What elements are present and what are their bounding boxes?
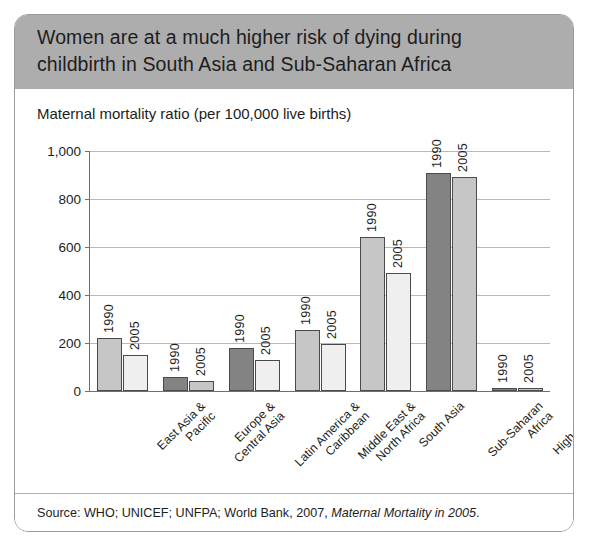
figure-title-line-1: Women are at a much higher risk of dying… xyxy=(37,24,553,51)
series-tag-1990: 1990 xyxy=(496,354,510,383)
bar-group: 19902005 xyxy=(360,151,411,391)
source-note: Source: WHO; UNICEF; UNFPA; World Bank, … xyxy=(15,493,573,532)
y-tick-label-600: 600 xyxy=(58,240,81,255)
bar-2005 xyxy=(452,177,477,391)
series-tag-1990: 1990 xyxy=(233,314,247,343)
bar-2005 xyxy=(321,344,346,391)
category-label: Sub-SaharanAfrica xyxy=(485,399,556,470)
bar-group: 19902005 xyxy=(163,151,214,391)
series-tag-2005: 2005 xyxy=(194,347,208,376)
y-tick-0 xyxy=(85,391,90,392)
category-label: High-income xyxy=(550,399,574,457)
bar-2005 xyxy=(518,388,543,391)
bar-1990 xyxy=(295,330,320,391)
bar-2005 xyxy=(386,273,411,391)
bar-2005 xyxy=(123,355,148,391)
bar-group: 19902005 xyxy=(492,151,543,391)
bar-1990 xyxy=(426,173,451,391)
series-tag-2005: 2005 xyxy=(259,326,273,355)
bar-2005 xyxy=(255,360,280,391)
figure-title: Women are at a much higher risk of dying… xyxy=(37,24,553,78)
category-label: Europe &Central Asia xyxy=(221,399,287,465)
bar-group: 19902005 xyxy=(295,151,346,391)
figure-card: Women are at a much higher risk of dying… xyxy=(14,14,574,532)
figure-header-band: Women are at a much higher risk of dying… xyxy=(15,15,573,89)
y-tick-600 xyxy=(85,247,90,248)
series-tag-1990: 1990 xyxy=(299,296,313,325)
figure-title-line-2: childbirth in South Asia and Sub-Saharan… xyxy=(37,51,553,78)
category-label: South Asia xyxy=(416,399,467,450)
y-tick-label-800: 800 xyxy=(58,192,81,207)
y-tick-400 xyxy=(85,295,90,296)
bar-1990 xyxy=(492,388,517,391)
bar-chart: 02004006008001,0001990200519902005199020… xyxy=(15,89,574,532)
series-tag-1990: 1990 xyxy=(430,139,444,168)
category-label: Latin America &Caribbean xyxy=(292,399,372,479)
series-tag-1990: 1990 xyxy=(168,343,182,372)
bar-group: 19902005 xyxy=(97,151,148,391)
plot-area: 02004006008001,0001990200519902005199020… xyxy=(89,151,550,392)
y-tick-label-0: 0 xyxy=(73,384,81,399)
bar-1990 xyxy=(360,237,385,391)
y-tick-label-1000: 1,000 xyxy=(47,144,81,159)
series-tag-2005: 2005 xyxy=(325,310,339,339)
series-tag-2005: 2005 xyxy=(128,321,142,350)
bar-group: 19902005 xyxy=(426,151,477,391)
y-tick-800 xyxy=(85,199,90,200)
series-tag-1990: 1990 xyxy=(102,304,116,333)
category-label-line-1: High-income xyxy=(550,399,574,457)
category-label: Middle East &North Africa xyxy=(355,399,428,472)
series-tag-2005: 2005 xyxy=(391,239,405,268)
bar-1990 xyxy=(229,348,254,391)
y-tick-label-200: 200 xyxy=(58,336,81,351)
series-tag-2005: 2005 xyxy=(522,354,536,383)
y-tick-1000 xyxy=(85,151,90,152)
bar-1990 xyxy=(163,377,188,391)
chart-panel: Maternal mortality ratio (per 100,000 li… xyxy=(15,89,573,532)
bar-1990 xyxy=(97,338,122,391)
series-tag-2005: 2005 xyxy=(456,143,470,172)
series-tag-1990: 1990 xyxy=(365,203,379,232)
bar-2005 xyxy=(189,381,214,391)
category-label: East Asia &Pacific xyxy=(154,399,218,463)
category-label-line-1: South Asia xyxy=(416,399,467,450)
y-tick-label-400: 400 xyxy=(58,288,81,303)
y-tick-200 xyxy=(85,343,90,344)
source-prefix: Source: WHO; UNICEF; UNFPA; World Bank, … xyxy=(37,506,331,520)
source-suffix: . xyxy=(476,506,480,520)
source-title-italic: Maternal Mortality in 2005 xyxy=(331,506,476,520)
bar-group: 19902005 xyxy=(229,151,280,391)
